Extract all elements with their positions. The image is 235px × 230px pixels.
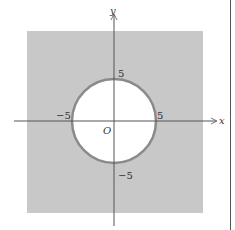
- tick-y-neg: −5: [118, 170, 133, 181]
- tick-x-neg: −5: [56, 110, 71, 121]
- x-axis-label: x: [219, 115, 225, 126]
- tick-x-pos: 5: [157, 110, 163, 121]
- tick-y-pos: 5: [118, 68, 124, 79]
- y-axis-label: y: [109, 5, 116, 16]
- diagram-canvas: x y O 5 −5 5 −5: [0, 0, 235, 230]
- origin-label: O: [103, 125, 111, 136]
- page-border-rule: [230, 0, 231, 230]
